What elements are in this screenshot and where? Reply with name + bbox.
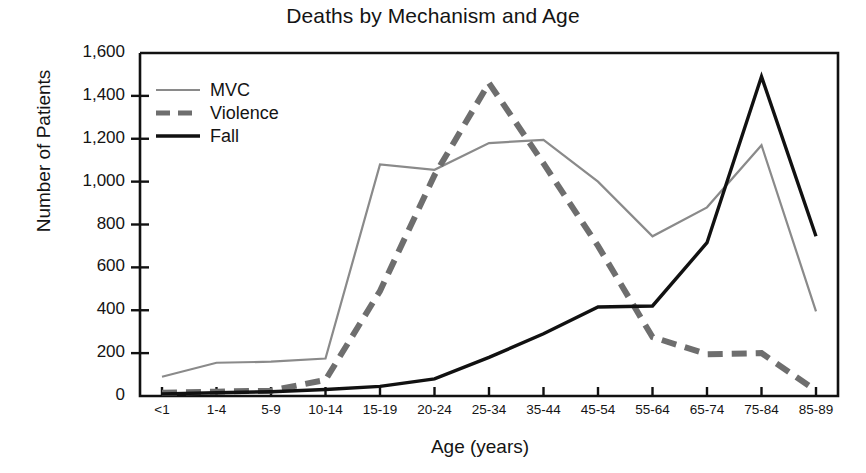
x-axis-tick-label: 10-14 [296, 402, 356, 417]
x-axis-tick-label: 25-34 [459, 402, 519, 417]
legend-item-fall: Fall [155, 124, 335, 147]
x-axis-tick-label: 15-19 [350, 402, 410, 417]
x-axis-tick-label: 55-64 [623, 402, 683, 417]
y-axis-tick-label: 200 [55, 342, 125, 362]
x-axis-tick-label: 45-54 [568, 402, 628, 417]
legend-swatch-fall [155, 129, 201, 143]
y-axis-tick-label: 600 [55, 256, 125, 276]
legend-swatch-mvc [155, 83, 201, 97]
x-axis-tick-label: 1-4 [187, 402, 247, 417]
chart-figure: Deaths by Mechanism and Age Number of Pa… [0, 0, 866, 473]
x-axis-tick-label: 75-84 [732, 402, 792, 417]
y-axis-tick-label: 1,400 [55, 85, 125, 105]
x-axis-tick-label: 65-74 [677, 402, 737, 417]
y-axis-tick-label: 1,200 [55, 128, 125, 148]
legend-item-mvc: MVC [155, 78, 335, 101]
legend-swatch-violence [155, 106, 201, 120]
legend-label-fall: Fall [210, 127, 239, 145]
y-axis-tick-label: 1,600 [55, 42, 125, 62]
x-axis-tick-label: 5-9 [241, 402, 301, 417]
chart-legend: MVC Violence Fall [155, 78, 335, 147]
legend-item-violence: Violence [155, 101, 335, 124]
x-axis-tick-label: <1 [132, 402, 192, 417]
x-axis-tick-label: 20-24 [405, 402, 465, 417]
y-axis-tick-label: 400 [55, 299, 125, 319]
x-axis-tick-label: 35-44 [514, 402, 574, 417]
y-axis-tick-label: 1,000 [55, 171, 125, 191]
legend-label-mvc: MVC [210, 81, 250, 99]
series-line-mvc [162, 140, 816, 377]
y-axis-tick-label: 0 [55, 385, 125, 405]
legend-label-violence: Violence [210, 104, 279, 122]
y-axis-tick-label: 800 [55, 214, 125, 234]
x-axis-tick-label: 85-89 [786, 402, 846, 417]
